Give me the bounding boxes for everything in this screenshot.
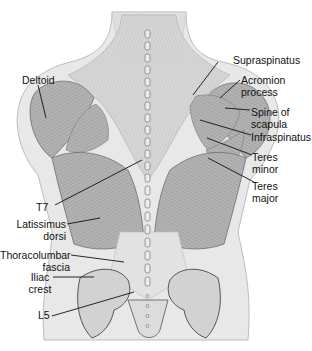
label-iliac-crest: Iliac crest [28,271,52,295]
label-spine-of-scapula: Spine of scapula [251,106,290,130]
label-thoracolumbar-fascia: Thoracolumbar fascia [0,249,70,273]
label-teres-major: Teres major [252,180,278,204]
label-acromion-process: Acromion process [241,74,285,98]
label-teres-minor: Teres minor [252,151,278,175]
label-deltoid: Deltoid [22,74,55,86]
label-supraspinatus: Supraspinatus [233,54,300,66]
label-l5: L5 [38,309,50,321]
label-infraspinatus: Infraspinatus [251,131,311,143]
back-muscles-illustration [0,0,312,351]
label-t7: T7 [36,201,48,213]
label-latissimus-dorsi: Latissimus dorsi [12,218,66,242]
